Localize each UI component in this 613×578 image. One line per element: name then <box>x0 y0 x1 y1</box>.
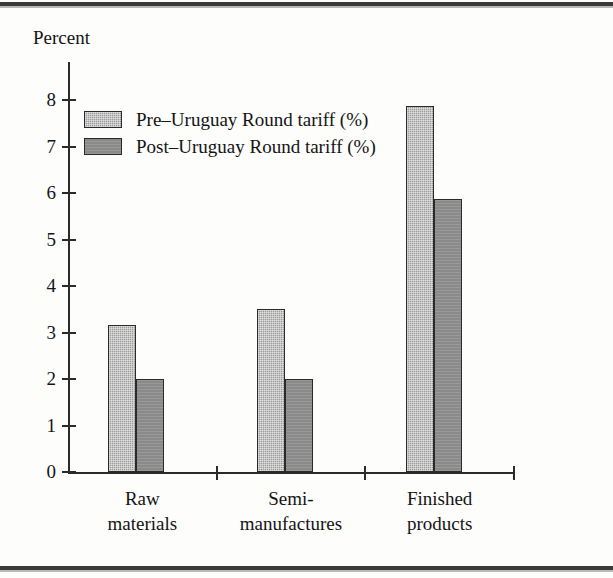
x-category-label-1-line-2: materials <box>68 511 217 536</box>
bar-pre-2 <box>257 309 285 472</box>
x-category-label-2-line-2: manufactures <box>217 511 366 536</box>
y-tick-3 <box>62 332 76 334</box>
x-category-label-1-line-1: Raw <box>68 486 217 511</box>
legend-item-pre: Pre–Uruguay Round tariff (%) <box>84 106 376 133</box>
x-axis-line <box>68 472 514 474</box>
x-category-label-3: Finishedproducts <box>365 486 514 536</box>
figure-page: Percent 012345678 RawmaterialsSemi-manuf… <box>0 0 613 578</box>
y-tick-label-7: 7 <box>26 137 56 156</box>
y-tick-5 <box>62 239 76 241</box>
bar-post-2 <box>285 379 313 472</box>
x-category-label-2: Semi-manufactures <box>217 486 366 536</box>
y-tick-label-6: 6 <box>26 183 56 202</box>
y-tick-1 <box>62 425 76 427</box>
x-tick-separator-1 <box>216 466 218 480</box>
bar-post-1 <box>136 379 164 472</box>
legend-item-post: Post–Uruguay Round tariff (%) <box>84 133 376 160</box>
x-category-label-1: Rawmaterials <box>68 486 217 536</box>
y-tick-2 <box>62 378 76 380</box>
x-category-label-3-line-2: products <box>365 511 514 536</box>
y-tick-0 <box>62 471 76 473</box>
x-category-label-2-line-1: Semi- <box>217 486 366 511</box>
y-tick-label-1: 1 <box>26 416 56 435</box>
x-category-label-3-line-1: Finished <box>365 486 514 511</box>
bar-pre-3 <box>406 106 434 472</box>
y-tick-label-2: 2 <box>26 369 56 388</box>
y-tick-label-3: 3 <box>26 323 56 342</box>
x-tick-separator-2 <box>364 466 366 480</box>
y-tick-label-4: 4 <box>26 276 56 295</box>
bar-post-3 <box>434 199 462 472</box>
y-tick-6 <box>62 192 76 194</box>
y-tick-4 <box>62 285 76 287</box>
y-axis-line <box>68 62 70 474</box>
y-axis-title: Percent <box>33 28 90 48</box>
y-tick-label-0: 0 <box>26 462 56 481</box>
legend: Pre–Uruguay Round tariff (%) Post–Urugua… <box>84 106 376 160</box>
y-tick-8 <box>62 99 76 101</box>
legend-label-pre: Pre–Uruguay Round tariff (%) <box>136 110 368 129</box>
y-tick-7 <box>62 146 76 148</box>
bottom-rule-shadow <box>0 570 613 572</box>
bar-pre-1 <box>108 325 136 472</box>
bar-chart: Percent 012345678 RawmaterialsSemi-manuf… <box>0 0 613 578</box>
y-tick-label-8: 8 <box>26 90 56 109</box>
legend-label-post: Post–Uruguay Round tariff (%) <box>136 137 376 156</box>
legend-swatch-post-icon <box>84 138 122 155</box>
y-tick-label-5: 5 <box>26 230 56 249</box>
legend-swatch-pre-icon <box>84 111 122 128</box>
x-tick-separator-3 <box>513 466 515 480</box>
